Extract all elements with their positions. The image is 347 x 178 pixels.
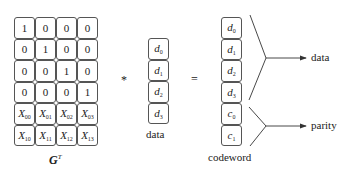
bracket-arrows xyxy=(0,0,347,178)
parity-output-label: parity xyxy=(311,119,337,131)
data-bracket xyxy=(249,15,306,100)
data-output-label: data xyxy=(311,51,329,63)
parity-bracket xyxy=(249,107,306,146)
